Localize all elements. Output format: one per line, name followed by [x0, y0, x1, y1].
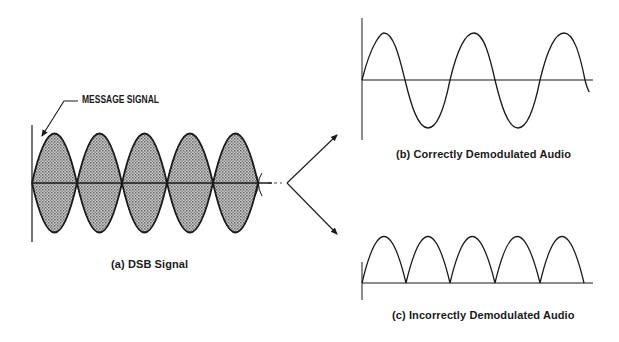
dsb-signal-panel	[32, 101, 272, 242]
message-signal-leader-line	[42, 101, 78, 136]
incorrect-audio-panel	[362, 237, 593, 301]
caption-incorrect-audio: (c) Incorrectly Demodulated Audio	[392, 309, 575, 321]
message-signal-label: MESSAGE SIGNAL	[82, 94, 159, 105]
caption-correct-audio: (b) Correctly Demodulated Audio	[396, 148, 571, 160]
rectified-sine-wave	[362, 237, 584, 284]
arrow-to-correct	[287, 135, 337, 183]
correct-audio-panel	[362, 18, 593, 140]
diagram-canvas	[0, 0, 619, 342]
branch-arrows	[268, 135, 337, 234]
caption-dsb-signal: (a) DSB Signal	[111, 258, 188, 270]
arrow-to-incorrect	[287, 183, 337, 234]
